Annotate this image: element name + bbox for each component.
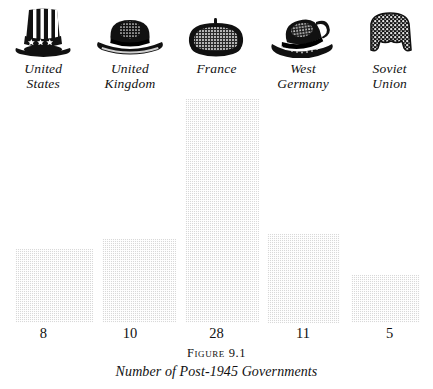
bar-united-states <box>15 249 93 323</box>
figure-number: Figure 9.1 <box>0 345 433 362</box>
bar-soviet-union <box>351 275 420 323</box>
figure-caption: Figure 9.1 Number of Post-1945 Governmen… <box>0 345 433 381</box>
figure-title: Number of Post-1945 Governments <box>0 362 433 381</box>
bar-value-label: 8 <box>0 323 87 345</box>
bar-chart-plot-area <box>0 0 433 323</box>
bar-value-label: 5 <box>346 323 433 345</box>
bar-west-germany <box>267 234 340 323</box>
bar-value-label: 11 <box>260 323 347 345</box>
bar-value-labels-row: 8 10 28 11 5 <box>0 323 433 345</box>
figure-container: United States <box>0 0 433 389</box>
bar-value-label: 10 <box>87 323 174 345</box>
bar-value-label: 28 <box>173 323 260 345</box>
bar-france <box>185 99 259 323</box>
bar-united-kingdom <box>102 239 176 323</box>
